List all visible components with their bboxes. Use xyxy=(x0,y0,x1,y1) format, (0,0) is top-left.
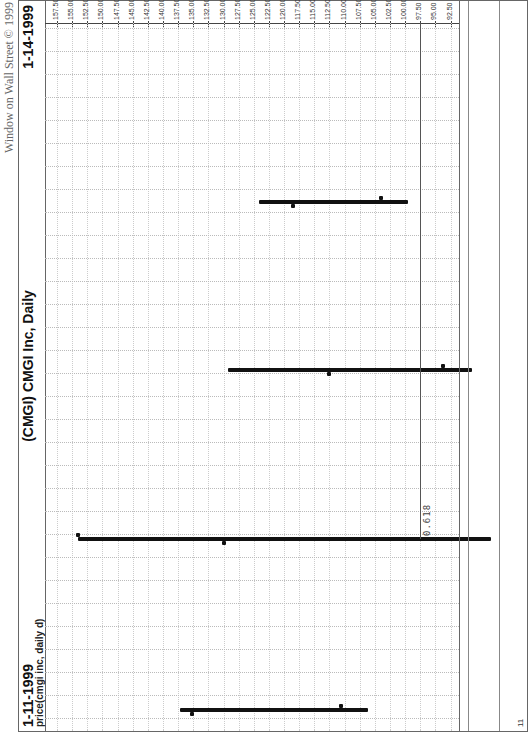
grid-line xyxy=(239,23,240,731)
grid-line xyxy=(254,23,255,731)
grid-line xyxy=(375,23,376,731)
grid-line-vertical xyxy=(45,580,459,581)
close-tick xyxy=(441,364,445,368)
grid-line-vertical xyxy=(45,97,459,98)
grid-line xyxy=(193,23,194,731)
grid-line-vertical xyxy=(45,120,459,121)
grid-line-vertical xyxy=(45,258,459,259)
grid-line xyxy=(345,23,346,731)
credit-text: Window on Wall Street © 1999 xyxy=(2,0,17,732)
grid-line xyxy=(87,23,88,731)
grid-line xyxy=(299,23,300,731)
grid-line-vertical xyxy=(45,511,459,512)
grid-line-vertical xyxy=(45,166,459,167)
grid-line xyxy=(57,23,58,731)
grid-line-vertical xyxy=(45,718,459,719)
grid-line-vertical xyxy=(45,281,459,282)
grid-line-vertical xyxy=(45,626,459,627)
grid-line xyxy=(435,23,436,731)
open-tick xyxy=(222,541,226,545)
grid-line-vertical xyxy=(45,143,459,144)
grid-line-vertical xyxy=(45,189,459,190)
grid-line-vertical xyxy=(45,649,459,650)
grid-line xyxy=(451,23,452,731)
grid-line xyxy=(163,23,164,731)
grid-line-vertical xyxy=(45,235,459,236)
grid-line-vertical xyxy=(45,442,459,443)
grid-line xyxy=(72,23,73,731)
study-label: price(cmgi inc, daily d) xyxy=(34,619,45,727)
grid-line xyxy=(329,23,330,731)
grid-line-vertical xyxy=(45,350,459,351)
grid-line-vertical xyxy=(45,51,459,52)
grid-line xyxy=(390,23,391,731)
chart-header: 1-11-1999 (CMGI) CMGI Inc, Daily 1-14-19… xyxy=(19,1,46,731)
open-tick xyxy=(327,372,331,376)
lower-panel-inner xyxy=(468,1,500,731)
chart-frame: 1-11-1999 (CMGI) CMGI Inc, Daily 1-14-19… xyxy=(18,0,528,732)
grid-line-vertical xyxy=(45,327,459,328)
grid-line xyxy=(148,23,149,731)
grid-line-vertical xyxy=(45,557,459,558)
grid-line xyxy=(360,23,361,731)
grid-line-vertical xyxy=(45,396,459,397)
close-tick xyxy=(76,533,80,537)
grid-line xyxy=(133,23,134,731)
lower-panel: 11 xyxy=(459,1,528,731)
plot-area[interactable]: 157.50155.00152.50150.00147.50145.00142.… xyxy=(45,1,459,731)
ohlc-bar[interactable] xyxy=(259,200,408,204)
bottom-marker: 11 xyxy=(516,719,525,727)
open-tick xyxy=(190,712,194,716)
grid-line-vertical xyxy=(45,672,459,673)
grid-line-vertical xyxy=(45,465,459,466)
grid-line xyxy=(102,23,103,731)
ohlc-bar[interactable] xyxy=(180,708,368,712)
grid-line-vertical xyxy=(45,534,459,535)
price-axis: 157.50155.00152.50150.00147.50145.00142.… xyxy=(45,1,459,24)
close-tick xyxy=(379,196,383,200)
grid-line-vertical xyxy=(45,419,459,420)
grid-line xyxy=(224,23,225,731)
grid-line-vertical xyxy=(45,373,459,374)
grid-line xyxy=(118,23,119,731)
grid-line xyxy=(284,23,285,731)
ohlc-bar[interactable] xyxy=(78,537,490,541)
grid-line-vertical xyxy=(45,212,459,213)
grid-line xyxy=(269,23,270,731)
grid-line xyxy=(178,23,179,731)
fibonacci-label: 0.618 xyxy=(422,504,432,536)
grid-line xyxy=(314,23,315,731)
rotated-chart-canvas: Window on Wall Street © 1999 1-11-1999 (… xyxy=(0,0,528,732)
close-tick xyxy=(339,704,343,708)
ohlc-bar[interactable] xyxy=(228,368,473,372)
grid-line-vertical xyxy=(45,28,459,29)
grid-line-vertical xyxy=(45,488,459,489)
grid-line-vertical xyxy=(45,304,459,305)
grid-line xyxy=(405,23,406,731)
grid-line xyxy=(208,23,209,731)
grid-line-vertical xyxy=(45,74,459,75)
grid-line-vertical xyxy=(45,695,459,696)
grid-line-vertical xyxy=(45,603,459,604)
fibonacci-line[interactable] xyxy=(420,23,421,539)
open-tick xyxy=(291,204,295,208)
date-end: 1-14-1999 xyxy=(20,5,36,69)
